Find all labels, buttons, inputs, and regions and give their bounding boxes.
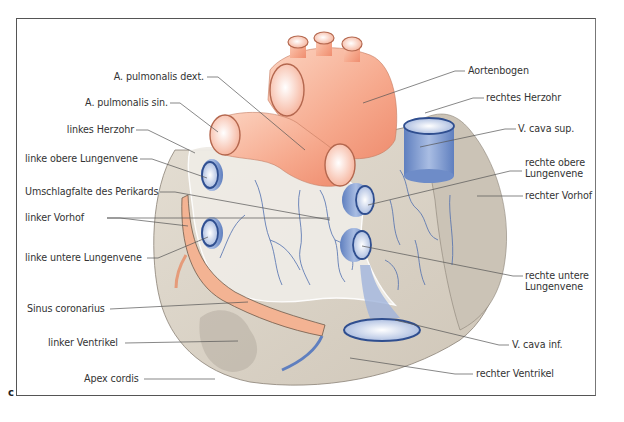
label-linke-untere-lungenvene: linke untere Lungenvene <box>25 252 142 263</box>
label-linkes-herzohr: linkes Herzohr <box>52 124 134 135</box>
label-a-pulmonalis-dext: A. pulmonalis dext. <box>102 71 204 82</box>
label-rechter-vorhof: rechter Vorhof <box>525 190 592 201</box>
label-v-cava-sup: V. cava sup. <box>518 123 574 134</box>
label-rechter-ventrikel: rechter Ventrikel <box>476 368 554 379</box>
label-linker-vorhof: linker Vorhof <box>25 212 84 223</box>
label-linke-obere-lungenvene: linke obere Lungenvene <box>25 153 138 164</box>
label-linker-ventrikel: linker Ventrikel <box>48 337 118 348</box>
label-aortenbogen: Aortenbogen <box>468 65 529 76</box>
label-rechte-obere-lungenvene-line1: rechte obere <box>525 157 585 168</box>
label-umschlagfalte-des-perikards: Umschlagfalte des Perikards <box>25 186 158 197</box>
label-apex-cordis: Apex cordis <box>84 373 139 384</box>
label-rechte-untere-lungenvene-line2: Lungenvene <box>525 281 583 292</box>
label-rechte-untere-lungenvene-line1: rechte untere <box>525 270 589 281</box>
vena-cava-superior <box>404 118 454 183</box>
label-rechte-obere-lungenvene-line2: Lungenvene <box>525 168 583 179</box>
label-a-pulmonalis-sin: A. pulmonalis sin. <box>72 97 168 108</box>
label-v-cava-inf: V. cava inf. <box>512 339 562 350</box>
label-sinus-coronarius: Sinus coronarius <box>27 303 105 314</box>
heart-illustration <box>0 0 624 422</box>
label-rechtes-herzohr: rechtes Herzohr <box>486 92 561 103</box>
